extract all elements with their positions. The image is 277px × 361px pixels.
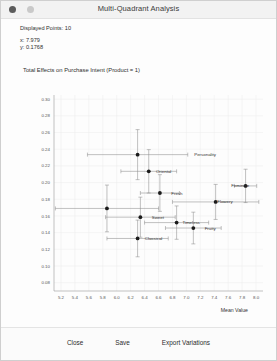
x-axis-tick-label: 7.2 <box>197 295 204 300</box>
data-point-label: Personality <box>194 152 217 157</box>
save-button[interactable]: Save <box>112 337 133 348</box>
x-axis-label: Mean Value <box>221 307 248 313</box>
y-axis-tick-label: 0.08 <box>41 280 50 285</box>
y-axis-tick-label: 0.24 <box>41 147 50 152</box>
data-point-label: Timeless <box>182 220 200 225</box>
data-point-label: Classical <box>145 236 163 241</box>
x-axis-tick-label: 5.2 <box>58 295 65 300</box>
y-axis-tick-label: 0.16 <box>41 214 50 219</box>
y-axis-tick-label: 0.10 <box>41 264 50 269</box>
data-point-group[interactable]: Classical <box>107 220 168 257</box>
footer-bar: Close Save Export Variations <box>1 327 276 360</box>
x-axis-tick-label: 7.0 <box>183 295 190 300</box>
data-point-label: Feminine <box>231 183 250 188</box>
data-point-group[interactable]: Oriental <box>121 150 177 193</box>
multi-quadrant-analysis-window: Multi-Quadrant Analysis Displayed Points… <box>0 0 277 361</box>
x-axis-tick-label: 6.0 <box>114 295 121 300</box>
x-axis-tick-label: 7.4 <box>211 295 218 300</box>
title-bar: Multi-Quadrant Analysis <box>1 1 276 19</box>
x-readout: x: 7.979 <box>20 37 71 45</box>
data-point-label: Fresh <box>171 191 183 196</box>
data-point-label: Flowery <box>217 199 233 204</box>
y-axis-tick-label: 0.26 <box>41 130 50 135</box>
data-point-group[interactable]: Feminine <box>231 169 257 202</box>
y-axis-tick-label: 0.14 <box>41 230 50 235</box>
data-point-group[interactable]: Personality <box>87 130 216 180</box>
y-axis-tick-label: 0.20 <box>41 180 50 185</box>
x-axis-tick-label: 8.0 <box>253 295 260 300</box>
data-point-group[interactable]: Sweet <box>106 197 176 237</box>
data-point-label: Oriental <box>156 169 171 174</box>
data-point-label: Fruity <box>205 226 217 231</box>
y-axis-tick-label: 0.28 <box>41 113 50 118</box>
scatter-plot[interactable]: 0.080.100.120.140.160.180.200.220.240.26… <box>1 85 277 325</box>
y-axis-tick-label: 0.22 <box>41 163 50 168</box>
y-readout: y: 0.1768 <box>20 44 71 52</box>
export-variations-button[interactable]: Export Variations <box>159 337 213 348</box>
x-axis-tick-label: 5.8 <box>100 295 107 300</box>
x-axis-tick-label: 5.6 <box>86 295 93 300</box>
displayed-points-label: Displayed Points: 10 <box>20 25 71 33</box>
data-point-group[interactable]: Timeless <box>145 206 209 239</box>
chart-title: Total Effects on Purchase Intent (Produc… <box>23 67 140 73</box>
close-button[interactable]: Close <box>64 337 86 348</box>
readout-panel: Displayed Points: 10 x: 7.979 y: 0.1768 <box>20 25 71 52</box>
x-axis-tick-label: 6.2 <box>128 295 135 300</box>
x-axis-tick-label: 5.4 <box>72 295 79 300</box>
x-axis-tick-label: 6.4 <box>142 295 149 300</box>
x-axis-tick-label: 7.6 <box>225 295 232 300</box>
plot-canvas[interactable]: 0.080.100.120.140.160.180.200.220.240.26… <box>1 85 277 325</box>
y-axis-tick-label: 0.30 <box>41 97 50 102</box>
window-title: Multi-Quadrant Analysis <box>1 4 276 13</box>
y-axis-tick-label: 0.18 <box>41 197 50 202</box>
data-point-group[interactable] <box>55 185 158 232</box>
data-point-label: Sweet <box>152 215 165 220</box>
x-axis-tick-label: 6.8 <box>169 295 176 300</box>
data-point-group[interactable]: Flowery <box>172 184 258 219</box>
x-axis-tick-label: 6.6 <box>155 295 162 300</box>
x-axis-tick-label: 7.8 <box>239 295 246 300</box>
y-axis-tick-label: 0.12 <box>41 247 50 252</box>
